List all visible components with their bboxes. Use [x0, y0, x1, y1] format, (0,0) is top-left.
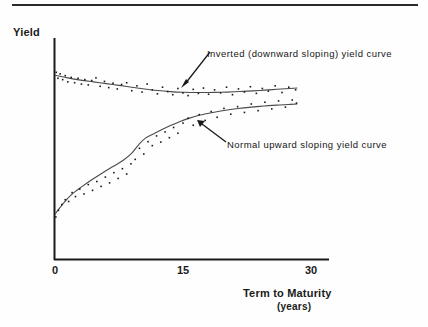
- data-point: [198, 114, 200, 116]
- data-point: [104, 81, 106, 83]
- data-point: [108, 87, 110, 89]
- data-point: [264, 101, 266, 103]
- data-point: [77, 78, 79, 80]
- annotation-inverted-curve: Inverted (downward sloping) yield curve: [207, 48, 392, 59]
- data-point: [257, 110, 259, 112]
- data-point: [146, 83, 148, 85]
- x-axis-units-label: (years): [277, 301, 311, 312]
- data-point: [182, 122, 184, 124]
- data-point: [244, 112, 246, 114]
- data-point: [173, 127, 175, 129]
- data-point: [95, 77, 97, 79]
- data-point: [126, 173, 128, 175]
- chart-figure: Yield Inverted (downward sloping) yield …: [0, 0, 428, 327]
- x-tick-label-30: 30: [301, 264, 321, 276]
- data-point: [91, 80, 93, 82]
- annotation-arrows-group: [181, 52, 226, 142]
- data-point: [291, 99, 293, 101]
- data-point: [113, 172, 115, 174]
- data-point: [84, 79, 86, 81]
- data-point: [250, 86, 252, 88]
- data-point: [96, 181, 98, 183]
- series-2: [55, 99, 297, 218]
- data-point: [162, 86, 164, 88]
- data-point: [295, 89, 297, 91]
- data-point: [192, 124, 194, 126]
- data-point: [157, 93, 159, 95]
- data-point: [71, 192, 73, 194]
- fitted-curve-line: [55, 104, 297, 214]
- data-point: [58, 210, 60, 212]
- data-point: [68, 201, 70, 203]
- data-point: [167, 91, 169, 93]
- data-point: [136, 85, 138, 87]
- data-point: [172, 94, 174, 96]
- data-point: [61, 204, 63, 206]
- data-point: [214, 89, 216, 91]
- data-point: [55, 72, 57, 74]
- data-point: [160, 141, 162, 143]
- data-point: [139, 148, 141, 150]
- x-tick-label-15: 15: [173, 264, 193, 276]
- data-point: [87, 184, 89, 186]
- data-point: [256, 93, 258, 95]
- data-point: [232, 94, 234, 96]
- data-point: [151, 89, 153, 91]
- data-point: [192, 89, 194, 91]
- data-point: [169, 137, 171, 139]
- data-point: [79, 188, 81, 190]
- data-point: [216, 117, 218, 119]
- data-point: [268, 90, 270, 92]
- data-point: [187, 95, 189, 97]
- data-point: [182, 92, 184, 94]
- data-point: [198, 93, 200, 95]
- data-point: [57, 78, 59, 80]
- data-point: [238, 88, 240, 90]
- x-tick-label-0: 0: [45, 264, 65, 276]
- data-point: [281, 92, 283, 94]
- data-point: [288, 86, 290, 88]
- normal-annotation-arrow-line: [202, 124, 226, 142]
- data-point: [131, 90, 133, 92]
- data-point: [81, 83, 83, 85]
- data-point: [230, 113, 232, 115]
- data-point: [285, 106, 287, 108]
- data-point: [156, 135, 158, 137]
- data-point: [271, 108, 273, 110]
- data-point: [141, 91, 143, 93]
- data-point: [151, 145, 153, 147]
- scatter-points: [55, 72, 296, 97]
- data-point: [64, 75, 66, 77]
- data-point: [116, 88, 118, 90]
- data-point: [55, 216, 57, 218]
- data-point: [177, 88, 179, 90]
- data-point: [203, 87, 205, 89]
- data-point: [164, 131, 166, 133]
- data-point: [92, 190, 94, 192]
- data-point: [126, 82, 128, 84]
- data-point: [105, 176, 107, 178]
- data-point: [177, 132, 179, 134]
- data-point: [62, 79, 64, 81]
- data-point: [274, 85, 276, 87]
- data-point: [117, 178, 119, 180]
- data-point: [64, 199, 66, 201]
- annotation-normal-curve: Normal upward sloping yield curve: [227, 139, 387, 150]
- data-point: [296, 102, 298, 104]
- data-point: [237, 106, 239, 108]
- data-point: [75, 196, 77, 198]
- scatter-points: [55, 99, 297, 218]
- data-point: [87, 84, 89, 86]
- x-axis-title: Term to Maturity: [243, 287, 332, 299]
- data-point: [278, 100, 280, 102]
- data-point: [59, 73, 61, 75]
- data-point: [210, 111, 212, 113]
- data-point: [220, 92, 222, 94]
- data-point: [109, 182, 111, 184]
- data-point: [147, 141, 149, 143]
- data-point: [67, 81, 69, 83]
- data-point: [121, 84, 123, 86]
- data-point: [74, 82, 76, 84]
- data-point: [223, 108, 225, 110]
- fitted-curve-line: [55, 75, 297, 92]
